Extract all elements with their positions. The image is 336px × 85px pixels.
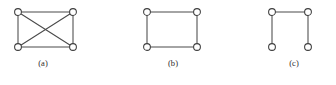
figure-root: (a)(b)(c) xyxy=(0,0,336,85)
graph-vertex-top-right xyxy=(194,9,201,16)
graph-vertex-bottom-left xyxy=(269,44,276,51)
graph-panel-cycle-graph-c4: (b) xyxy=(138,0,208,85)
graph-drawing-complete-graph-k4 xyxy=(4,0,82,58)
graph-vertex-top-left xyxy=(144,9,151,16)
graph-vertex-bottom-left xyxy=(144,44,151,51)
graph-vertex-bottom-right xyxy=(305,44,312,51)
graph-panel-path-graph-p4: (c) xyxy=(258,0,330,85)
graph-vertex-bottom-left xyxy=(15,44,22,51)
graph-vertex-bottom-right xyxy=(194,44,201,51)
graph-drawing-path-graph-p4 xyxy=(258,0,330,58)
panel-caption-cycle-graph-c4: (b) xyxy=(138,58,208,68)
graph-vertex-bottom-right xyxy=(70,44,77,51)
graph-vertex-top-right xyxy=(305,9,312,16)
graph-panel-complete-graph-k4: (a) xyxy=(4,0,82,85)
panel-caption-complete-graph-k4: (a) xyxy=(4,58,82,68)
graph-vertex-top-left xyxy=(15,9,22,16)
graph-vertex-top-left xyxy=(269,9,276,16)
graph-vertex-top-right xyxy=(70,9,77,16)
graph-drawing-cycle-graph-c4 xyxy=(138,0,208,58)
panel-caption-path-graph-p4: (c) xyxy=(258,58,330,68)
